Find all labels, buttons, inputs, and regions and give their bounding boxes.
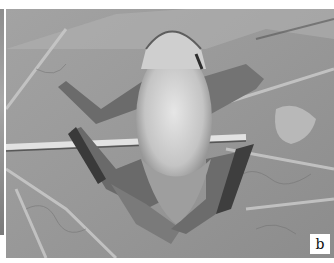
panel-label: b xyxy=(310,234,330,254)
adjacent-panel-edge xyxy=(0,9,4,235)
frog-illustration xyxy=(6,9,334,258)
frog-photo: b xyxy=(6,9,334,258)
